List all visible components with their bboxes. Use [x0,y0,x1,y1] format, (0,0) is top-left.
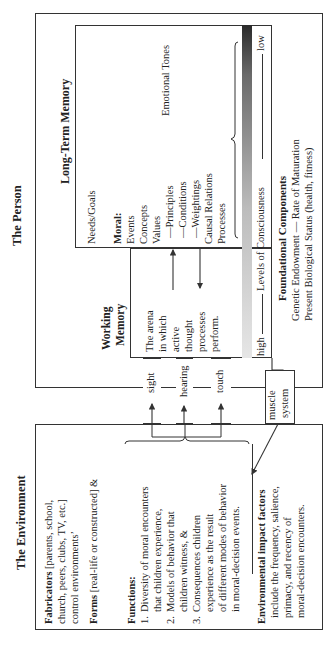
functions-brace-icon [0,0,336,656]
moral-development-diagram: The Person Long-Term Memory Needs/Goals … [0,0,336,656]
